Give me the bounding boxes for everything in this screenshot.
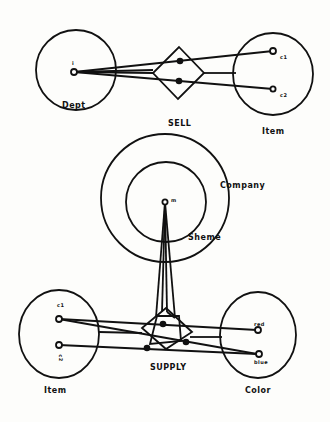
item-instance-label-c2: c2 [280, 92, 287, 98]
diagram-canvas: i Dept SELL c1 c2 Item Company Sheme m c… [0, 0, 330, 422]
sell-relationship-label: SELL [168, 119, 191, 128]
item-instance-label-c1: c1 [280, 54, 287, 60]
supply-relationship-label: SUPPLY [150, 363, 187, 372]
schema-instance-label-m: m [171, 197, 177, 203]
sell-relationship-diamond [153, 47, 204, 99]
schema-instance-node-m [162, 199, 167, 204]
item-entity-label-top: Item [262, 127, 285, 136]
supply-link-dot-1 [160, 321, 167, 328]
color-instance-label-red: red [254, 321, 265, 327]
dept-entity-label: Dept [62, 101, 86, 110]
schema-label: Sheme [188, 233, 221, 242]
color-instance-node-blue [256, 351, 262, 357]
company-label: Company [220, 181, 265, 190]
item-instance-node-c1 [270, 48, 276, 54]
item-instance-node-c2-bottom [56, 342, 62, 348]
item-instance-label-c2-bottom: c2 [58, 354, 64, 361]
color-entity-circle [220, 292, 296, 378]
dept-instance-node [71, 69, 77, 75]
color-instance-node-red [255, 327, 261, 333]
supply-link-dot-3 [144, 345, 151, 352]
item-entity-circle-top [233, 33, 313, 115]
color-entity-label: Color [245, 386, 271, 395]
supply-link-dot-2 [183, 339, 190, 346]
sell-link-dot-1 [177, 58, 184, 65]
color-instance-label-blue: blue [254, 359, 268, 365]
item-instance-node-c2 [270, 86, 275, 91]
item-instance-node-c1-bottom [56, 316, 62, 322]
item-instance-label-c1-bottom: c1 [57, 302, 64, 308]
sell-link-dot-2 [176, 78, 183, 85]
item-entity-label-bottom: Item [44, 386, 67, 395]
diagram-graphics [0, 0, 330, 422]
dept-instance-label: i [72, 60, 74, 66]
